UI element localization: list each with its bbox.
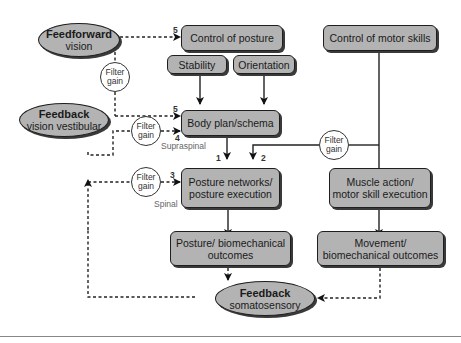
muscle-action-box: Muscle action/ motor skill execution	[329, 168, 431, 208]
orientation-box: Orientation	[233, 55, 295, 74]
pathway-number-1: 1	[216, 153, 221, 163]
pathway-number-5-top: 5	[173, 25, 178, 35]
filter-gain-motor: Filter gain	[319, 130, 349, 160]
filter-gain-spinal: Filter gain	[131, 167, 161, 197]
pathway-number-2: 2	[261, 153, 266, 163]
body-plan-schema-box: Body plan/schema	[181, 110, 280, 136]
supraspinal-label: Supraspinal	[161, 141, 206, 151]
feedback-vision-vestibular-node: Feedback vision vestibular	[19, 103, 109, 137]
feedback-somatosensory-node: Feedback somatosensory	[215, 281, 315, 316]
bottom-divider	[0, 336, 461, 337]
filter-gain-supraspinal: Filter gain	[131, 116, 161, 146]
filter-gain-feedforward: Filter gain	[100, 62, 130, 92]
stability-box: Stability	[167, 55, 227, 74]
posture-networks-box: Posture networks/ posture execution	[181, 168, 280, 208]
pathway-number-5-body: 5	[173, 104, 178, 114]
control-of-motor-skills-box: Control of motor skills	[323, 25, 437, 51]
spinal-label: Spinal	[154, 199, 178, 209]
pathway-number-3: 3	[170, 170, 175, 180]
movement-outcomes-box: Movement/ biomechanical outcomes	[317, 231, 444, 266]
feedforward-vision-node: Feedforward vision	[38, 23, 120, 57]
control-of-posture-box: Control of posture	[181, 25, 283, 51]
posture-outcomes-box: Posture/ biomechanical outcomes	[170, 231, 291, 266]
